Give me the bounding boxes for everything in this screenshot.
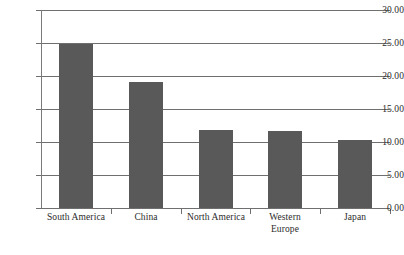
- x-axis-label-western-europe: Western Europe: [250, 212, 320, 235]
- x-axis-label-japan: Japan: [320, 212, 390, 224]
- x-axis-label-south-america: South America: [41, 212, 111, 224]
- x-axis-label-china: China: [111, 212, 181, 224]
- x-axis-labels: South America China North America Wester…: [0, 0, 404, 255]
- x-axis-label-north-america: North America: [181, 212, 251, 224]
- bar-chart: 30.00 25.00 20.00 15.00 10.00 5.00 0.00 …: [0, 0, 404, 255]
